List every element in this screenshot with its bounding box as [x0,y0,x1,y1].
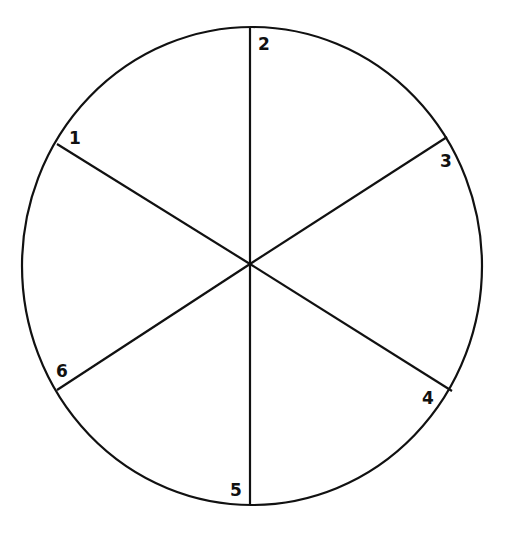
spoke-1 [57,144,250,264]
segment-label-5: 5 [230,480,242,500]
spoke-6 [57,264,250,390]
spoke-4 [250,264,452,391]
spokes-group [57,27,452,505]
segment-label-4: 4 [422,388,434,408]
segment-label-3: 3 [440,151,452,171]
segment-label-1: 1 [69,128,81,148]
segment-label-2: 2 [258,34,270,54]
segmented-circle-diagram: 1 2 3 4 5 6 [0,0,508,536]
spoke-3 [250,137,447,264]
segment-label-6: 6 [56,361,68,381]
